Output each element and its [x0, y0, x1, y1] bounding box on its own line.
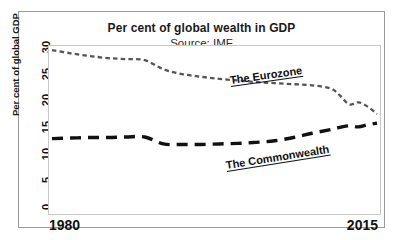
series-line-eurozone: [52, 50, 377, 114]
x-axis-start-label: 1980: [49, 217, 80, 233]
x-axis-end-label: 2015: [347, 217, 378, 233]
series-layer: [48, 45, 381, 215]
chart-title: Per cent of global wealth in GDP: [19, 21, 384, 35]
series-line-commonwealth: [52, 123, 377, 145]
figure-frame: Per cent of global wealth in GDP Source:…: [18, 11, 385, 228]
y-axis-title: Per cent of global GDP: [10, 13, 21, 116]
